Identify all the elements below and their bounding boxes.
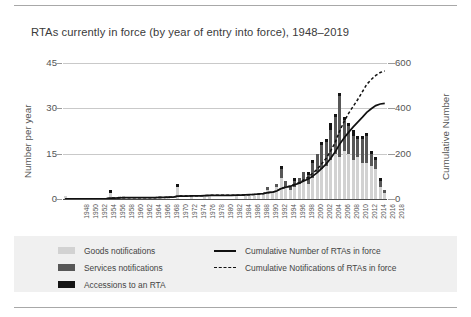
x-axis-ticks: 1948195019521954195619581960196219641966… <box>63 202 387 234</box>
legend-swatch-accessions <box>58 281 75 288</box>
x-tick-label: 1962 <box>146 204 153 219</box>
y-tick-label-right: 200 <box>395 148 425 159</box>
x-tick-label: 1976 <box>209 204 216 219</box>
x-tick-label: 1958 <box>128 204 135 219</box>
x-tick-label: 1986 <box>254 204 261 219</box>
legend-item-services[interactable]: Services notifications <box>58 260 166 275</box>
legend-item-accessions[interactable]: Accessions to an RTA <box>58 277 166 292</box>
legend-line-cum-notifications-icon <box>214 263 236 272</box>
y-tick-label-left: 0 <box>31 193 57 204</box>
y-tick-label-left: 45 <box>31 57 57 68</box>
x-tick-label: 1960 <box>137 204 144 219</box>
legend-item-cum-notifications[interactable]: Cumulative Notifications of RTAs in forc… <box>214 260 396 275</box>
y-tick-mark-right <box>388 154 395 155</box>
x-tick-label: 1996 <box>299 204 306 219</box>
x-tick-label: 2000 <box>317 204 324 219</box>
x-tick-label: 1964 <box>155 204 162 219</box>
legend-line-stroke <box>214 267 236 268</box>
x-tick-label: 2002 <box>326 204 333 219</box>
legend-item-cum-number[interactable]: Cumulative Number of RTAs in force <box>214 243 396 258</box>
chart-title: RTAs currently in force (by year of entr… <box>31 26 349 38</box>
legend-item-goods[interactable]: Goods notifications <box>58 243 166 258</box>
y-tick-mark-left <box>55 199 62 200</box>
x-tick-label: 1980 <box>227 204 234 219</box>
x-tick-label: 1998 <box>308 204 315 219</box>
y-tick-label-left: 30 <box>31 102 57 113</box>
x-tick-label: 1984 <box>245 204 252 219</box>
y-tick-mark-right <box>388 199 395 200</box>
y-axis-label-right: Cumulative Number <box>440 93 451 180</box>
x-tick-label: 1968 <box>173 204 180 219</box>
x-tick-label: 1978 <box>218 204 225 219</box>
x-tick-label: 1992 <box>281 204 288 219</box>
y-tick-mark-right <box>388 108 395 109</box>
x-axis-line <box>63 199 387 200</box>
cumulative-lines <box>63 63 387 199</box>
legend-line-stroke <box>214 250 236 252</box>
y-tick-mark-left <box>55 154 62 155</box>
x-tick-label: 1956 <box>119 204 126 219</box>
x-tick-label: 1990 <box>272 204 279 219</box>
x-tick-label: 1988 <box>263 204 270 219</box>
line-cumulative-number <box>65 103 385 198</box>
x-tick-label: 1950 <box>92 204 99 219</box>
x-tick-label: 2018 <box>398 204 405 219</box>
x-tick-label: 2016 <box>389 204 396 219</box>
x-tick-label: 2006 <box>344 204 351 219</box>
y-tick-mark-left <box>55 63 62 64</box>
x-tick-label: 1972 <box>191 204 198 219</box>
legend-swatch-services <box>58 264 75 271</box>
x-tick-label: 2004 <box>335 204 342 219</box>
legend-column-series: Goods notificationsServices notification… <box>58 243 166 294</box>
x-tick-label: 2012 <box>371 204 378 219</box>
x-tick-label: 2008 <box>353 204 360 219</box>
x-tick-label: 1966 <box>164 204 171 219</box>
top-divider <box>14 5 457 6</box>
legend-label: Services notifications <box>84 263 163 273</box>
line-cumulative-notifications <box>65 71 385 199</box>
legend-label: Accessions to an RTA <box>84 280 166 290</box>
x-tick-label: 1982 <box>236 204 243 219</box>
y-tick-label-right: 0 <box>395 193 425 204</box>
chart-legend: Goods notificationsServices notification… <box>14 236 457 292</box>
x-tick-label: 1952 <box>101 204 108 219</box>
y-tick-label-right: 400 <box>395 102 425 113</box>
legend-line-cum-number-icon <box>214 246 236 255</box>
x-tick-label: 1974 <box>200 204 207 219</box>
x-tick-label: 1954 <box>110 204 117 219</box>
chart-figure: RTAs currently in force (by year of entr… <box>0 0 471 317</box>
x-tick-label: 1970 <box>182 204 189 219</box>
x-tick-label: 1948 <box>83 204 90 219</box>
y-tick-mark-right <box>388 63 395 64</box>
y-axis-label-left: Number per year <box>22 104 33 178</box>
legend-label: Cumulative Number of RTAs in force <box>245 246 381 256</box>
legend-label: Goods notifications <box>84 246 155 256</box>
legend-swatch-goods <box>58 247 75 254</box>
bottom-divider <box>14 307 457 308</box>
y-tick-label-right: 600 <box>395 57 425 68</box>
x-tick-label: 2014 <box>380 204 387 219</box>
legend-label: Cumulative Notifications of RTAs in forc… <box>245 263 396 273</box>
legend-column-lines: Cumulative Number of RTAs in forceCumula… <box>214 243 396 277</box>
x-tick-label: 2010 <box>362 204 369 219</box>
x-tick-label: 1994 <box>290 204 297 219</box>
y-tick-label-left: 15 <box>31 148 57 159</box>
y-tick-mark-left <box>55 108 62 109</box>
plot-area <box>63 63 387 199</box>
